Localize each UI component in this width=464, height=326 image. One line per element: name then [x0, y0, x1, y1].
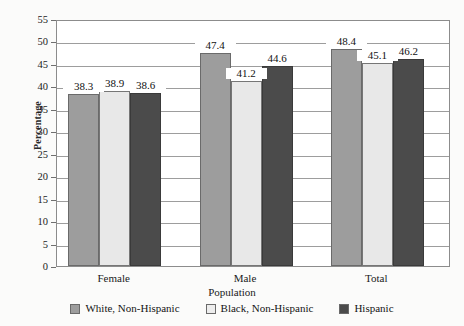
bar-female-series2 [130, 93, 161, 266]
legend-swatch-icon [206, 304, 216, 314]
bar-male-series0 [200, 53, 231, 266]
y-axis-tick-label: 15 [20, 195, 48, 205]
legend-swatch-icon [70, 304, 80, 314]
y-axis-tick-label: 5 [20, 240, 48, 250]
y-axis-tick-label: 50 [20, 37, 48, 47]
bar-value-label: 48.4 [326, 36, 367, 47]
y-axis-tick-label: 45 [20, 60, 48, 70]
bar-value-label: 46.2 [388, 46, 429, 57]
legend-item-1: Black, Non-Hispanic [206, 303, 314, 314]
bar-total-series1 [362, 63, 393, 266]
bar-value-label: 47.4 [195, 40, 236, 51]
y-axis-tick-label: 0 [20, 262, 48, 272]
bar-female-series0 [68, 94, 99, 266]
y-axis-tick-label: 55 [20, 15, 48, 25]
y-axis-tick-label: 25 [20, 150, 48, 160]
y-axis-tick-label: 40 [20, 82, 48, 92]
chart-legend: White, Non-HispanicBlack, Non-HispanicHi… [0, 303, 464, 314]
y-axis-tick-mark [51, 267, 56, 268]
bar-value-label: 38.6 [125, 80, 166, 91]
x-axis-title: Population [0, 286, 464, 298]
bar-male-series1 [231, 81, 262, 266]
y-axis-tick-label: 35 [20, 105, 48, 115]
bar-value-label: 44.6 [257, 53, 298, 64]
legend-swatch-icon [339, 304, 349, 314]
bar-chart-figure: Percentage 0510152025303540455055 38.338… [0, 0, 464, 326]
legend-item-0: White, Non-Hispanic [70, 303, 179, 314]
legend-label: White, Non-Hispanic [85, 303, 179, 314]
x-axis-label-female: Female [64, 272, 164, 284]
y-axis-tick-label: 30 [20, 127, 48, 137]
bar-total-series2 [393, 59, 424, 266]
bar-female-series1 [99, 91, 130, 266]
legend-label: Black, Non-Hispanic [221, 303, 314, 314]
x-axis-label-total: Total [326, 272, 426, 284]
gridline [57, 43, 449, 44]
legend-label: Hispanic [354, 303, 393, 314]
legend-item-2: Hispanic [339, 303, 393, 314]
y-axis-tick-label: 20 [20, 172, 48, 182]
x-axis-label-male: Male [195, 272, 295, 284]
bar-value-label: 41.2 [226, 68, 267, 79]
y-axis-tick-label: 10 [20, 217, 48, 227]
bar-total-series0 [331, 49, 362, 266]
bar-male-series2 [262, 66, 293, 266]
